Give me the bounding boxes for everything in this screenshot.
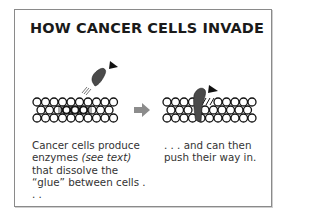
pointer-triangle-icon (109, 61, 118, 69)
caption-left-italic: (see text) (81, 151, 131, 163)
pointer-triangle-icon (208, 85, 218, 93)
enzyme-lines-icon (82, 87, 91, 95)
cell-layer-right (163, 98, 256, 122)
caption-left-text-end: that dissolve the “glue” between cells .… (32, 164, 146, 201)
right-arrow-icon (134, 103, 150, 117)
caption-left: Cancer cells produce enzymes (see text) … (32, 139, 152, 200)
caption-right: . . . and can then push their way in. (164, 139, 269, 164)
cancer-cell-left (92, 68, 106, 86)
